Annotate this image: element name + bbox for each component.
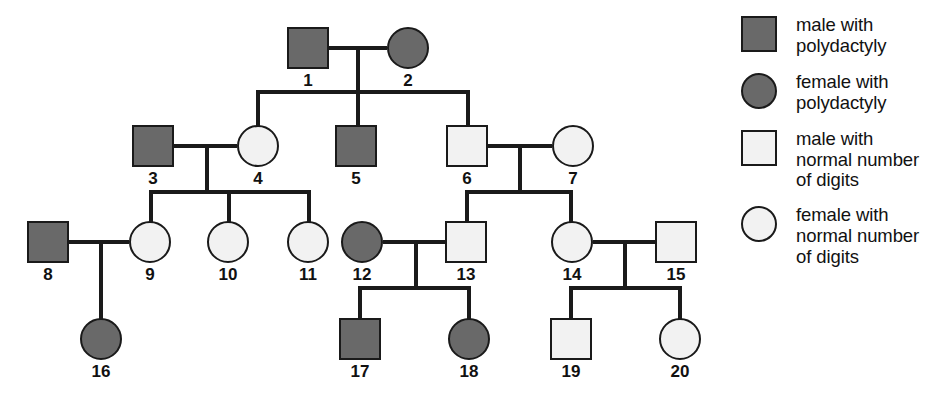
legend-label-line2: polydactyly	[796, 36, 886, 57]
individual-18-label: 18	[449, 363, 489, 380]
descent-line-1-2	[356, 46, 360, 92]
open-circle-icon	[741, 206, 777, 242]
sibline-to-13	[465, 190, 469, 222]
individual-5-label: 5	[336, 170, 376, 187]
individual-2-label: 2	[388, 72, 428, 89]
sibship-bar-6-7	[465, 190, 573, 194]
sibline-to-14	[569, 190, 573, 222]
descent-line-8-9	[99, 240, 103, 320]
legend-item-female-affected: female with polydactyly	[740, 71, 935, 115]
descent-line-3-4	[205, 144, 209, 192]
legend-label-line1: female with	[796, 205, 919, 226]
individual-4-label: 4	[238, 170, 278, 187]
individual-14-circle[interactable]	[551, 221, 593, 263]
legend-label-line2: normal number	[796, 150, 919, 171]
sibship-bar-gen2	[256, 90, 470, 94]
individual-12-circle[interactable]	[341, 221, 383, 263]
legend-item-female-unaffected: female with normal number of digits	[740, 204, 935, 267]
legend-label-line1: male with	[796, 15, 886, 36]
legend-label-line2: polydactyly	[796, 93, 888, 114]
legend-label-male-affected: male with polydactyly	[796, 14, 886, 56]
sibship-bar-14-15	[569, 286, 682, 290]
sibline-to-9	[149, 190, 153, 222]
individual-16-label: 16	[81, 363, 121, 380]
descent-line-12-13	[414, 240, 418, 288]
individual-8-square[interactable]	[27, 221, 69, 263]
individual-7-label: 7	[553, 170, 593, 187]
individual-10-label: 10	[208, 266, 248, 283]
legend-label-line1: female with	[796, 72, 888, 93]
individual-8-label: 8	[28, 266, 68, 283]
individual-18-circle[interactable]	[448, 318, 490, 360]
individual-10-circle[interactable]	[207, 221, 249, 263]
individual-1-label: 1	[288, 72, 328, 89]
individual-12-label: 12	[342, 266, 382, 283]
individual-19-square[interactable]	[550, 318, 592, 360]
individual-6-label: 6	[447, 170, 487, 187]
legend-label-male-unaffected: male with normal number of digits	[796, 128, 919, 191]
legend-item-male-affected: male with polydactyly	[740, 14, 935, 58]
legend-swatch-female-affected	[740, 71, 784, 115]
individual-20-circle[interactable]	[659, 318, 701, 360]
descent-line-6-7	[518, 144, 522, 192]
sibline-to-18	[467, 286, 471, 320]
sibline-to-11	[307, 190, 311, 222]
sibline-to-4	[256, 90, 260, 126]
filled-square-icon	[741, 16, 777, 52]
legend-item-male-unaffected: male with normal number of digits	[740, 128, 935, 191]
legend-label-female-affected: female with polydactyly	[796, 71, 888, 113]
individual-2-circle[interactable]	[387, 27, 429, 69]
legend-label-line1: male with	[796, 129, 919, 150]
individual-15-label: 15	[656, 266, 696, 283]
individual-11-circle[interactable]	[287, 221, 329, 263]
sibship-bar-12-13	[358, 286, 471, 290]
descent-line-14-15	[623, 240, 627, 288]
sibline-to-6	[466, 90, 470, 126]
individual-4-circle[interactable]	[237, 125, 279, 167]
individual-1-square[interactable]	[287, 27, 329, 69]
legend: male with polydactyly female with polyda…	[740, 14, 935, 280]
individual-5-square[interactable]	[335, 125, 377, 167]
legend-label-line3: of digits	[796, 247, 919, 268]
filled-circle-icon	[741, 73, 777, 109]
individual-11-label: 11	[288, 266, 328, 283]
sibline-to-5	[356, 90, 360, 126]
individual-20-label: 20	[660, 363, 700, 380]
sibline-to-10	[227, 190, 231, 222]
individual-17-square[interactable]	[339, 318, 381, 360]
pedigree-diagram: 1 2 3 4 5 6 7 8 9 10 11 12 13 14 15	[0, 0, 935, 398]
individual-19-label: 19	[551, 363, 591, 380]
legend-label-line2: normal number	[796, 226, 919, 247]
individual-15-square[interactable]	[655, 221, 697, 263]
legend-label-line3: of digits	[796, 170, 919, 191]
individual-13-label: 13	[446, 266, 486, 283]
individual-9-label: 9	[130, 266, 170, 283]
sibline-to-19	[569, 286, 573, 320]
open-square-icon	[741, 130, 777, 166]
individual-6-square[interactable]	[446, 125, 488, 167]
individual-9-circle[interactable]	[129, 221, 171, 263]
sibline-to-17	[358, 286, 362, 320]
legend-swatch-male-affected	[740, 14, 784, 58]
individual-7-circle[interactable]	[552, 125, 594, 167]
individual-16-circle[interactable]	[80, 318, 122, 360]
individual-3-square[interactable]	[132, 125, 174, 167]
legend-label-female-unaffected: female with normal number of digits	[796, 204, 919, 267]
sibline-to-20	[678, 286, 682, 320]
legend-swatch-male-unaffected	[740, 128, 784, 172]
individual-13-square[interactable]	[445, 221, 487, 263]
individual-17-label: 17	[340, 363, 380, 380]
individual-14-label: 14	[552, 266, 592, 283]
individual-3-label: 3	[133, 170, 173, 187]
legend-swatch-female-unaffected	[740, 204, 784, 248]
